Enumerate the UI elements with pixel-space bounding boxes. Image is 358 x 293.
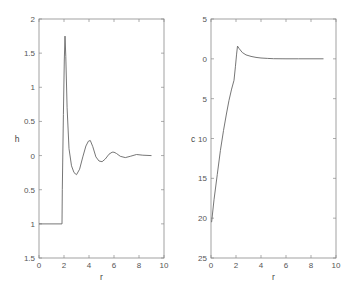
y-tick-label: 10 [198, 135, 207, 144]
y-tick-label: 0.5 [24, 117, 36, 126]
y-tick-label: 1.5 [24, 254, 36, 263]
x-tick-label: 10 [332, 261, 341, 270]
y-tick-label: 20 [198, 214, 207, 223]
chart-figure: 024681021.510.500.511.5rh 02468105051015… [0, 0, 358, 293]
y-axis-label: c [191, 134, 196, 144]
y-tick-label: 5 [203, 15, 208, 24]
y-tick-label: 0 [203, 55, 208, 64]
x-tick-label: 8 [309, 261, 314, 270]
y-axis-label: h [15, 134, 20, 144]
data-curve [212, 46, 324, 222]
y-tick-label: 1.5 [24, 49, 36, 58]
x-tick-label: 2 [234, 261, 239, 270]
y-tick-label: 15 [198, 174, 207, 183]
axes-box [39, 19, 164, 258]
x-tick-label: 4 [87, 261, 92, 270]
x-tick-label: 0 [37, 261, 42, 270]
x-tick-label: 2 [62, 261, 67, 270]
y-tick-label: 2 [31, 15, 36, 24]
x-tick-label: 4 [259, 261, 264, 270]
x-axis-label: r [272, 272, 275, 282]
x-tick-label: 10 [160, 261, 169, 270]
x-tick-label: 6 [112, 261, 117, 270]
y-tick-label: 0 [31, 152, 36, 161]
data-curve [39, 36, 152, 224]
x-tick-label: 8 [137, 261, 142, 270]
y-tick-label: 5 [203, 95, 208, 104]
c-plot: 024681050510152025rc [191, 15, 341, 282]
y-tick-label: 1 [31, 83, 36, 92]
x-tick-label: 0 [209, 261, 214, 270]
axes-box [211, 19, 336, 258]
y-tick-label: 0.5 [24, 186, 36, 195]
y-tick-label: 1 [31, 220, 36, 229]
h-plot: 024681021.510.500.511.5rh [15, 15, 169, 282]
x-tick-label: 6 [284, 261, 289, 270]
y-tick-label: 25 [198, 254, 207, 263]
x-axis-label: r [100, 272, 103, 282]
